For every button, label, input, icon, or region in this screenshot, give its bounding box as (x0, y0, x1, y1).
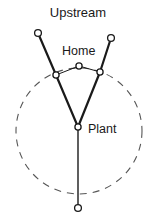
edge-upstream-right-branch (100, 38, 111, 72)
network-diagram (0, 0, 156, 219)
node-mid-left[interactable] (53, 72, 59, 78)
label-plant: Plant (88, 123, 117, 136)
edge-right-trunk (78, 72, 100, 127)
figure-canvas: Upstream Home Plant (0, 0, 156, 219)
title-upstream: Upstream (0, 6, 156, 19)
node-home[interactable] (76, 63, 82, 69)
range-circle (16, 68, 142, 194)
node-upstream-left-tip[interactable] (35, 30, 42, 37)
node-plant[interactable] (75, 124, 81, 130)
edges-layer (38, 33, 111, 208)
label-home: Home (62, 45, 95, 58)
node-mid-right[interactable] (97, 69, 103, 75)
edge-left-trunk (56, 75, 78, 127)
node-upstream-right-tip[interactable] (108, 35, 115, 42)
node-downstream-tip[interactable] (75, 205, 82, 212)
edge-upstream-left-branch (38, 33, 56, 75)
